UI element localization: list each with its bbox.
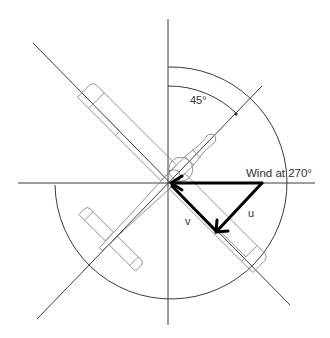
wind-label: Wind at 270°	[246, 168, 312, 180]
arc-tick	[235, 113, 237, 115]
v-label: v	[185, 216, 191, 227]
aircraft-outline	[13, 48, 302, 337]
left-wing	[77, 82, 176, 181]
angle-label: 45°	[190, 95, 207, 106]
u-label: u	[248, 208, 254, 219]
tail-stabiliser	[79, 206, 114, 241]
v-component-vector	[172, 186, 215, 230]
u-component-vector	[217, 183, 262, 231]
